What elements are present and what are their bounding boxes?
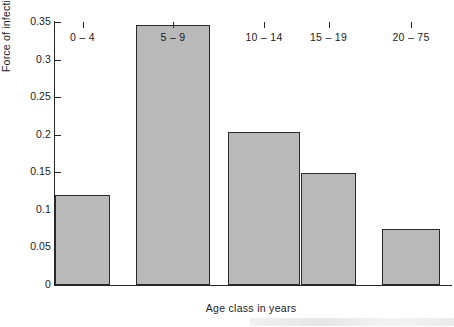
y-axis-tick: 0.25 — [55, 97, 61, 98]
y-axis-tick: 0.2 — [55, 135, 61, 136]
scan-artifact — [250, 318, 454, 326]
y-axis-tick-label: 0.35 — [30, 16, 51, 27]
y-axis-tick-label: 0 — [45, 279, 51, 290]
plot-area: 00.050.10.150.20.250.30.350 – 45 – 910 –… — [55, 22, 451, 285]
x-axis-tick-label: 20 – 75 — [392, 31, 429, 43]
y-axis-tick: 0.3 — [55, 60, 61, 61]
y-axis-tick: 0.35 — [55, 22, 61, 23]
bar — [136, 25, 210, 285]
y-axis-title: Force of infection·y−1 — [0, 0, 12, 72]
y-axis-tick-label: 0.3 — [36, 54, 51, 65]
bar — [55, 195, 110, 285]
x-axis-tick — [264, 22, 265, 28]
x-axis-title: Age class in years — [0, 302, 454, 314]
bar — [228, 132, 300, 285]
x-axis-line — [54, 285, 452, 286]
bar-chart-figure: 00.050.10.150.20.250.30.350 – 45 – 910 –… — [0, 0, 454, 327]
y-axis-tick: 0 — [55, 285, 61, 286]
bar — [301, 173, 356, 285]
y-axis-title-text: Force of infection·y — [0, 0, 12, 72]
x-axis-tick-label: 5 – 9 — [161, 31, 186, 43]
y-axis-tick-label: 0.25 — [30, 91, 51, 102]
x-axis-tick — [329, 22, 330, 28]
y-axis-tick-label: 0.1 — [36, 204, 51, 215]
x-axis-tick — [83, 22, 84, 28]
x-axis-tick — [411, 22, 412, 28]
x-axis-tick-label: 15 – 19 — [310, 31, 347, 43]
x-axis-tick-label: 10 – 14 — [245, 31, 282, 43]
y-axis-tick-label: 0.15 — [30, 166, 51, 177]
y-axis-tick-label: 0.2 — [36, 129, 51, 140]
x-axis-tick — [173, 22, 174, 28]
x-axis-title-text: Age class in years — [206, 302, 297, 314]
y-axis-tick-label: 0.05 — [30, 241, 51, 252]
x-axis-tick-label: 0 – 4 — [70, 31, 95, 43]
y-axis-tick: 0.15 — [55, 172, 61, 173]
bar — [382, 229, 440, 285]
